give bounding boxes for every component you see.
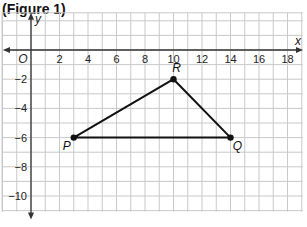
x-tick-label: 4: [85, 53, 91, 65]
tick-labels: xyO24681012141618−2−4−6−8−10: [8, 12, 302, 202]
point-r-dot: [170, 76, 176, 82]
coordinate-plane: xyO24681012141618−2−4−6−8−10 PQR: [0, 0, 307, 227]
point-p-dot: [71, 134, 77, 140]
y-tick-label: −4: [14, 102, 27, 114]
x-tick-label: 18: [281, 53, 293, 65]
y-tick-label: −2: [14, 73, 27, 85]
x-axis-arrow-left-icon: [3, 47, 10, 53]
y-axis-arrow-up-icon: [28, 13, 34, 20]
x-tick-label: 12: [196, 53, 208, 65]
y-axis-label: y: [34, 12, 42, 26]
point-q-label: Q: [233, 139, 242, 153]
y-tick-label: −10: [8, 190, 27, 202]
grid-lines: [2, 13, 303, 212]
y-tick-label: −6: [14, 132, 27, 144]
x-tick-label: 2: [56, 53, 62, 65]
x-tick-label: 6: [113, 53, 119, 65]
x-tick-label: 14: [224, 53, 236, 65]
triangle-pqr: PQR: [63, 61, 242, 152]
x-tick-label: 8: [142, 53, 148, 65]
x-tick-label: 16: [253, 53, 265, 65]
x-axis-label: x: [294, 34, 302, 48]
point-r-label: R: [172, 61, 181, 75]
y-axis-arrow-down-icon: [28, 213, 34, 220]
y-tick-label: −8: [14, 161, 27, 173]
origin-label: O: [18, 52, 27, 66]
point-p-label: P: [63, 139, 71, 153]
axes: [3, 13, 303, 220]
